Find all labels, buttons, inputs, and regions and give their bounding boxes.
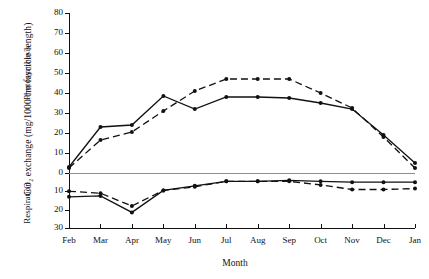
data-point [413,180,417,184]
series-respiration-solid [67,178,417,214]
data-point [130,210,134,214]
data-point [256,95,260,99]
data-point [350,106,354,110]
data-point [67,195,71,199]
data-point [161,109,165,113]
data-point [130,123,134,127]
data-point [350,180,354,184]
data-point [287,77,291,81]
data-point [382,188,386,192]
data-point [67,189,71,193]
figure-co2-exchange: CO₂ exchange (mg/1000 cm fascicle length… [0,0,429,279]
data-point [99,138,103,142]
data-point [161,94,165,98]
data-point [319,179,323,183]
data-point [224,95,228,99]
data-point [413,187,417,191]
data-point [224,179,228,183]
series-respiration-dashed [67,179,417,208]
data-point [382,180,386,184]
data-point [130,130,134,134]
data-point [193,107,197,111]
data-point [319,183,323,187]
data-point [287,96,291,100]
data-point [99,191,103,195]
data-point [319,101,323,105]
data-point [319,91,323,95]
data-point [413,166,417,170]
series-photosynthesis-solid [67,94,417,169]
data-point [193,185,197,189]
plot-area [0,0,429,279]
data-point [382,135,386,139]
data-point [350,188,354,192]
data-point [256,179,260,183]
series-photosynthesis-dashed [67,77,417,170]
data-point [256,77,260,81]
data-point [161,188,165,192]
data-point [413,161,417,165]
data-point [224,77,228,81]
data-point [67,166,71,170]
data-point [130,204,134,208]
data-point [193,89,197,93]
data-point [99,125,103,129]
data-point [287,179,291,183]
